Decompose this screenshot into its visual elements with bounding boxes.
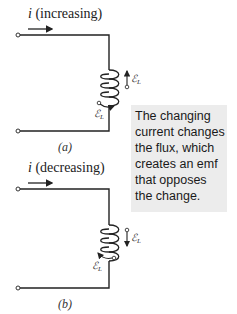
caption-a: (a) <box>58 140 72 155</box>
terminal-top-a <box>16 33 20 37</box>
note-line: current changes <box>135 124 223 140</box>
note-line: the flux, which <box>135 140 223 156</box>
terminal-bottom-a <box>16 129 20 133</box>
current-state-b: (decreasing) <box>35 160 104 175</box>
explanation-note: The changing current changes the flux, w… <box>131 105 227 212</box>
circuit-a: ℰL ℰL <box>16 29 141 133</box>
terminal-bottom-b <box>16 286 20 290</box>
inductor-coil-a-icon <box>101 70 119 106</box>
note-line: The changing <box>135 108 223 124</box>
note-line: that opposes <box>135 172 223 188</box>
circuit-b: ℰL ℰL <box>16 183 141 290</box>
current-symbol-a: i <box>28 6 32 21</box>
current-label-b: i (decreasing) <box>28 160 105 176</box>
current-symbol-b: i <box>28 160 32 175</box>
emf-label-a-right: ℰL <box>131 73 141 86</box>
note-line: creates an emf <box>135 156 223 172</box>
emf-label-b-left: ℰL <box>92 260 102 273</box>
emf-label-b-right: ℰL <box>131 232 141 245</box>
emf-curved-arrow-b-icon <box>98 253 112 258</box>
current-state-a: (increasing) <box>35 6 102 21</box>
caption-b: (b) <box>58 297 72 312</box>
inductor-coil-b-icon <box>101 225 119 261</box>
terminal-top-b <box>16 187 20 191</box>
note-line: the change. <box>135 188 223 204</box>
emf-label-a-left: ℰL <box>94 108 104 121</box>
current-label-a: i (increasing) <box>28 6 102 22</box>
